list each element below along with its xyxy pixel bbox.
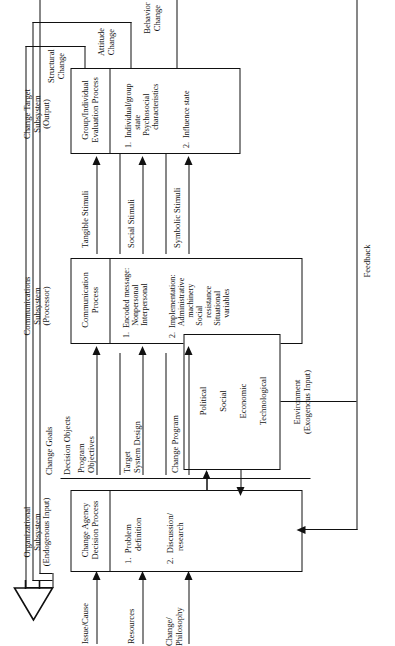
stimuli-line-tangible	[96, 163, 97, 254]
stimuli-arrowhead-tangible	[92, 156, 100, 165]
environment-item-technological: Technological	[258, 333, 268, 469]
environment-box: Political Social Economic Technological	[183, 334, 280, 470]
input-arrow-line-issue-cause	[96, 578, 97, 644]
output-line-attitude-b	[32, 22, 131, 23]
decision-object-line-program-objectives	[96, 353, 97, 475]
decision-object-label-change-program: Change Program	[170, 357, 180, 473]
org-title-rule	[109, 490, 110, 571]
stimuli-line-symbolic	[188, 163, 189, 254]
comm-title-rule	[109, 258, 110, 343]
environment-item-economic: Economic	[238, 333, 248, 469]
feedback-drop-b	[32, 580, 52, 581]
stimuli-label-symbolic: Symbolic Stimuli	[172, 156, 182, 248]
feedback-rail-bottom	[39, 0, 40, 574]
org-item-2: 2. Discussion/ research	[165, 488, 184, 564]
feedback-drop-join	[52, 573, 53, 588]
input-arrowhead-resources	[138, 571, 146, 580]
input-label-issue-cause: Issue/Cause	[80, 574, 90, 644]
env-link-in-line	[240, 470, 241, 488]
header-environment: Environment (Exogenous Input)	[292, 326, 311, 478]
output-line-structural-a	[84, 46, 85, 68]
decision-object-arrowhead-program-objectives	[92, 346, 100, 355]
decision-object-arrowhead-change-program	[184, 346, 192, 355]
decision-lane-rule-1	[119, 353, 120, 475]
input-label-change-philosophy: Change/ Philosophy	[164, 572, 183, 646]
input-arrow-line-change-philosophy	[188, 578, 189, 644]
output-label-attitude-change: Attitude Change	[96, 2, 115, 82]
output-label-behavior-change: Behavior Change	[142, 0, 161, 58]
target-item-2: 2. Influence state	[181, 66, 190, 148]
organizational-subsystem-box: Change Agency Decision Process 1. Proble…	[70, 490, 302, 572]
stimuli-arrowhead-social	[138, 156, 146, 165]
input-arrowhead-change-philosophy	[184, 571, 192, 580]
feedback-rail-top	[25, 46, 26, 588]
feedback-return-riser	[302, 529, 357, 530]
feedback-rail-middle	[32, 22, 33, 581]
label-feedback: Feedback	[362, 206, 372, 316]
target-item-1: 1. Individual/group state Psychosocial c…	[123, 66, 159, 148]
output-label-structural-change: Structural Change	[46, 26, 65, 106]
comm-item-1: 1. Encoded message: Nonpersonal Interper…	[121, 256, 148, 338]
decision-object-line-change-program	[188, 353, 189, 475]
input-arrowhead-issue-cause	[92, 571, 100, 580]
decision-objects-bracket	[60, 478, 310, 479]
env-link-in-arrowhead	[236, 487, 244, 496]
stimuli-arrowhead-symbolic	[184, 156, 192, 165]
feedback-drop-c	[39, 573, 52, 574]
feedback-return-horizontal	[356, 0, 357, 530]
decision-object-label-target-system-design: Target System Design	[122, 357, 141, 473]
stimuli-line-social	[142, 163, 143, 254]
feedback-return-arrowhead	[296, 527, 305, 535]
communication-process-title: Communication Process	[80, 257, 99, 343]
input-arrow-line-resources	[142, 578, 143, 644]
comm-item-2: 2. Implementation: Administrative machin…	[167, 256, 230, 338]
decision-object-line-target-system-design	[142, 353, 143, 475]
label-decision-objects: Decision Objects	[62, 355, 72, 475]
decision-object-arrowhead-target-system-design	[138, 346, 146, 355]
org-item-1: 1. Problem definition	[123, 488, 142, 564]
communications-subsystem-box: Communication Process 1. Encoded message…	[70, 258, 302, 344]
change-agency-decision-process-title: Change Agency Decision Process	[80, 489, 99, 571]
env-link-out-arrowhead	[202, 470, 210, 479]
feedback-drop-a	[25, 587, 52, 588]
label-change-goals: Change Goals	[44, 355, 54, 475]
stimuli-label-tangible: Tangible Stimuli	[80, 156, 90, 248]
stimuli-lane-rule-1	[119, 154, 120, 254]
stimuli-lane-rule-2	[165, 154, 166, 254]
stimuli-label-social: Social Stimuli	[126, 156, 136, 248]
decision-object-label-program-objectives: Program Objectives	[76, 357, 95, 473]
decision-lane-rule-2	[165, 353, 166, 475]
environment-item-social: Social	[218, 333, 228, 469]
environment-feedback-stub	[280, 401, 356, 402]
output-line-attitude-a	[130, 22, 131, 68]
environment-item-political: Political	[198, 333, 208, 469]
change-target-subsystem-box: Group/Individual Evaluation Process 1. I…	[70, 68, 240, 154]
input-label-resources: Resources	[126, 574, 136, 644]
output-line-behavior-a	[176, 0, 177, 68]
